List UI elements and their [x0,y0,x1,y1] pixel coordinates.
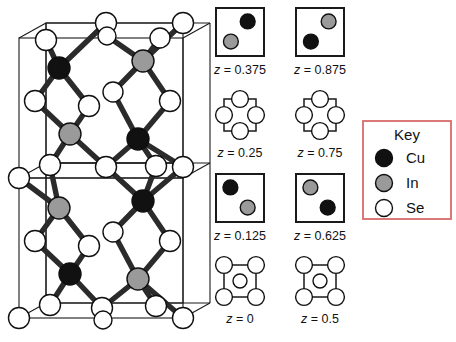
key-swatch-cu [376,150,393,167]
key-swatch-se [376,200,393,217]
key-label-cu: Cu [406,149,425,166]
key-legend: Key CuInSe [0,0,456,342]
key-label-in: In [406,174,419,191]
key-swatch-in [376,175,393,192]
key-title: Key [394,126,420,143]
crystal-structure-figure: z = 0.375z = 0.875z = 0.25z = 0.75z = 0.… [0,0,456,342]
key-label-se: Se [406,199,424,216]
